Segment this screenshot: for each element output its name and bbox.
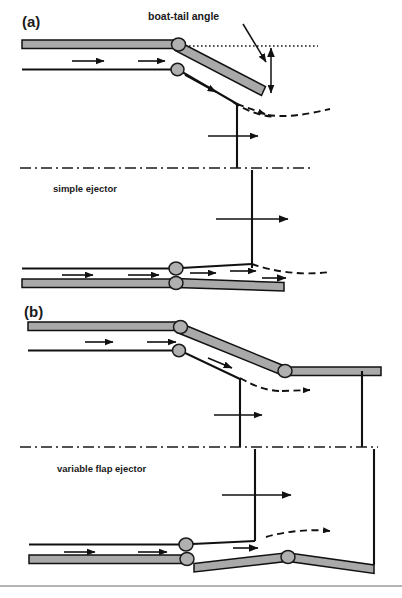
shear-layer-b-lower bbox=[266, 530, 330, 537]
upper-flap-exit-segment-b bbox=[287, 367, 381, 376]
panel-b: (b) variable flap ejector bbox=[20, 303, 381, 574]
lower-inner-hinge-b bbox=[179, 538, 193, 551]
shear-layer-b-upper bbox=[240, 378, 282, 391]
lower-inner-duct-wall-b bbox=[29, 541, 255, 545]
lower-inner-duct-wall-a bbox=[22, 264, 252, 269]
lower-outer-cowl-a bbox=[22, 279, 176, 288]
upper-outer-cowl bbox=[22, 40, 178, 49]
lower-outer-hinge-b bbox=[180, 553, 194, 566]
panel-a-label: (a) bbox=[22, 13, 40, 30]
upper-inner-hinge bbox=[171, 63, 184, 75]
panel-b-caption: variable flap ejector bbox=[57, 463, 147, 474]
upper-outer-hinge bbox=[172, 38, 186, 51]
panel-a: (a) boat-tail angle simp bbox=[20, 10, 330, 291]
secondary-flow-arrow-b-upper bbox=[282, 390, 310, 391]
upper-boat-tail-flap bbox=[175, 42, 266, 96]
lower-boat-tail-flap-a bbox=[176, 279, 284, 292]
lower-variable-flap-b bbox=[194, 553, 286, 572]
lower-outer-cowl-b bbox=[29, 555, 186, 564]
upper-inner-duct-wall-b bbox=[28, 351, 240, 380]
flow-arrow-a-u3 bbox=[185, 75, 216, 92]
boat-tail-angle-label: boat-tail angle bbox=[148, 10, 219, 22]
secondary-flow-arrow-a-upper bbox=[237, 104, 265, 114]
shear-layer-a-upper-tail bbox=[268, 109, 330, 116]
shear-layer-a-lower bbox=[252, 264, 330, 273]
upper-inner-hinge-b bbox=[173, 344, 186, 356]
panel-b-label: (b) bbox=[24, 303, 43, 320]
panel-a-caption: simple ejector bbox=[53, 183, 117, 194]
lower-inner-hinge-a bbox=[169, 262, 183, 275]
upper-second-hinge-b bbox=[278, 365, 292, 378]
ejector-nozzle-figure: (a) boat-tail angle simp bbox=[0, 0, 402, 598]
lower-second-hinge-b bbox=[281, 551, 295, 564]
lower-flap-exit-segment-b bbox=[289, 553, 374, 574]
lower-outer-hinge-a bbox=[169, 277, 183, 290]
boat-tail-angle-leader bbox=[243, 24, 266, 62]
upper-outer-hinge-b bbox=[174, 321, 188, 334]
upper-outer-cowl-b bbox=[28, 322, 180, 331]
